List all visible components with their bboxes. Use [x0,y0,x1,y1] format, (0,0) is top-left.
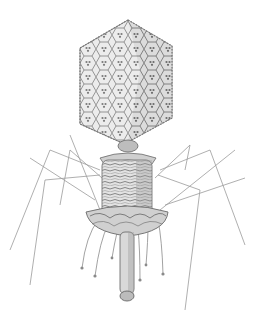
phage-illustration [0,0,260,322]
capsid-head [80,20,172,142]
tail-tube [120,232,134,301]
baseplate [86,206,168,236]
phage-drawing [0,0,260,322]
